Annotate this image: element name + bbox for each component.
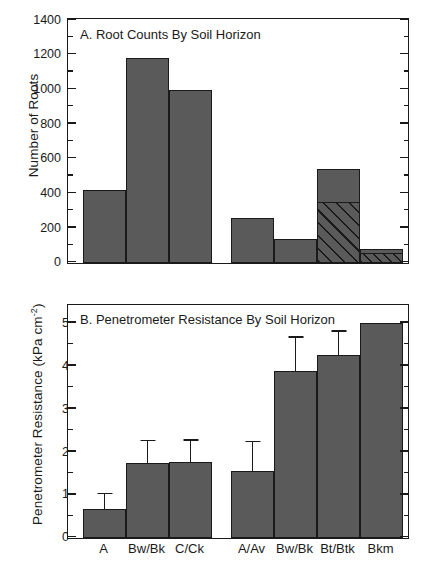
y-tick-minor [68,515,73,516]
bar [169,462,212,538]
bar [317,169,360,263]
x-tick-label: Bw/Bk [128,541,165,556]
y-tick-minor [404,105,409,106]
y-tick-minor [68,386,73,387]
y-tick-major [68,493,76,494]
y-tick-minor [404,209,409,210]
bar [231,218,274,263]
y-tick-label: 1200 [33,47,61,61]
y-tick-major [400,364,408,365]
y-tick-label: 400 [40,186,61,200]
y-tick-major [68,122,76,123]
y-tick-minor [68,244,73,245]
y-tick-minor [68,343,73,344]
y-tick-minor [404,174,409,175]
y-tick-major [400,18,408,19]
y-tick-minor [404,70,409,71]
error-bar-cap [140,440,155,442]
y-tick-major [68,407,76,408]
bar [274,239,317,263]
y-tick-major [400,157,408,158]
x-axis-tick-labels: ABw/BkC/CkA/AvBw/BkBt/BtkBkm [67,541,409,565]
panel-a-y-tick-labels: 0200400600800100012001400 [21,0,61,288]
error-bar-cap [183,439,198,441]
y-tick-major [68,261,76,262]
x-tick-label: Bkm [368,541,394,556]
y-tick-major [68,226,76,227]
y-tick-major [68,157,76,158]
y-tick-label: 200 [40,221,61,235]
bar [126,463,169,538]
y-tick-major [400,226,408,227]
y-tick-minor [404,244,409,245]
bar [169,90,212,263]
y-tick-major [400,88,408,89]
y-tick-minor [404,386,409,387]
bar [360,323,403,538]
y-tick-label: 0 [54,255,61,269]
bar [231,471,274,538]
error-bar [338,332,340,355]
bar [126,58,169,263]
x-tick-label: Bt/Btk [320,541,355,556]
error-bar [104,494,106,509]
y-tick-major [68,88,76,89]
y-tick-major [400,450,408,451]
panel-a-plot-area: A. Root Counts By Soil Horizon [67,18,409,264]
panel-a-root-counts: Number of Roots 020040060080010001200140… [0,0,428,288]
y-tick-major [400,192,408,193]
y-tick-minor [404,343,409,344]
y-tick-label: 1400 [33,13,61,27]
y-tick-major [400,261,408,262]
y-tick-label: 600 [40,151,61,165]
error-bar [252,442,254,471]
error-bar-cap [288,336,303,338]
y-tick-minor [404,429,409,430]
y-tick-major [68,536,76,537]
y-tick-label: 800 [40,117,61,131]
x-tick-label: A/Av [238,541,265,556]
error-bar [190,441,192,462]
y-tick-major [68,364,76,365]
error-bar-cap [97,493,112,495]
bar [83,190,126,263]
y-tick-major [68,450,76,451]
y-tick-major [68,321,76,322]
y-tick-minor [404,515,409,516]
y-tick-major [400,122,408,123]
bar-segment-diagonal-hatch [318,202,359,262]
y-tick-major [68,192,76,193]
y-tick-minor [68,36,73,37]
y-tick-major [400,493,408,494]
error-bar-cap [245,441,260,443]
bar [274,371,317,538]
y-tick-major [400,536,408,537]
error-bar [295,338,297,371]
y-tick-major [400,407,408,408]
y-tick-minor [68,105,73,106]
x-tick-label: Bw/Bk [276,541,313,556]
panel-a-bars [68,19,408,263]
panel-b-bars [68,305,408,538]
y-tick-minor [404,36,409,37]
panel-b-penetrometer: Penetrometer Resistance (kPa cm-2) 01234… [0,288,428,573]
y-tick-minor [68,429,73,430]
y-tick-major [68,53,76,54]
error-bar [147,441,149,462]
y-tick-minor [68,209,73,210]
y-tick-major [400,53,408,54]
panel-b-y-tick-labels: 012345 [29,288,69,573]
y-tick-label: 1000 [33,82,61,96]
bar [83,509,126,538]
bar [317,355,360,538]
y-tick-minor [68,174,73,175]
y-tick-major [68,18,76,19]
y-tick-minor [404,472,409,473]
x-tick-label: C/Ck [175,541,204,556]
y-tick-minor [68,140,73,141]
bar [360,249,403,263]
error-bar-cap [331,330,346,332]
panel-b-plot-area: B. Penetrometer Resistance By Soil Horiz… [67,304,409,539]
y-tick-minor [404,140,409,141]
y-tick-minor [68,472,73,473]
